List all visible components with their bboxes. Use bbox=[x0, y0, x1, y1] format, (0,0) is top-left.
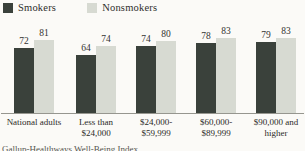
value-label-nonsmokers-5: 83 bbox=[274, 26, 298, 36]
category-label-5: $90,000 and higher bbox=[241, 117, 305, 139]
bar-nonsmokers-1 bbox=[34, 40, 54, 113]
bar-nonsmokers-4 bbox=[216, 38, 236, 113]
bar-smokers-4 bbox=[196, 43, 216, 113]
bar-smokers-1 bbox=[14, 48, 34, 113]
value-label-nonsmokers-1: 81 bbox=[32, 28, 56, 38]
bar-smokers-5 bbox=[256, 42, 276, 113]
well-being-bar-chart: Smokers Nonsmokers 7281National adults64… bbox=[0, 0, 305, 151]
bar-nonsmokers-2 bbox=[96, 46, 116, 113]
bar-nonsmokers-3 bbox=[156, 41, 176, 113]
bar-smokers-2 bbox=[76, 55, 96, 113]
plot-area: 7281National adults6474Less than $24,000… bbox=[0, 0, 305, 151]
value-label-nonsmokers-2: 74 bbox=[94, 34, 118, 44]
bar-smokers-3 bbox=[136, 46, 156, 113]
value-label-nonsmokers-3: 80 bbox=[154, 29, 178, 39]
value-label-smokers-2: 64 bbox=[74, 43, 98, 53]
source-attribution: Gallup-Healthways Well-Being Index bbox=[2, 144, 138, 151]
x-axis-line bbox=[1, 113, 304, 114]
category-label-1: National adults bbox=[0, 117, 69, 128]
value-label-nonsmokers-4: 83 bbox=[214, 26, 238, 36]
bar-nonsmokers-5 bbox=[276, 38, 296, 113]
